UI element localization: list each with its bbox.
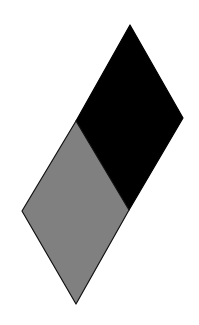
diagram-canvas [0, 0, 199, 325]
parallelogram-diagram [0, 0, 199, 325]
